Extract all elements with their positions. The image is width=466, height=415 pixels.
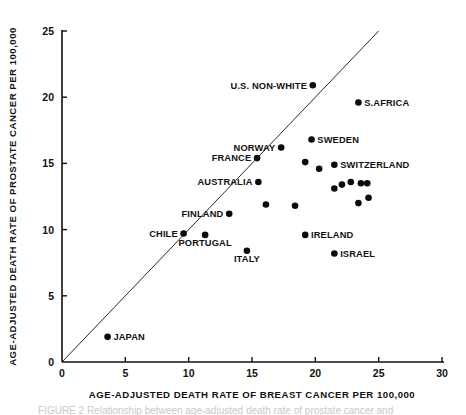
figure-caption-strip: FIGURE 2 Relationship between age-adjust…: [0, 403, 466, 415]
data-point-label: ISRAEL: [340, 249, 375, 259]
x-tick-label: 25: [373, 367, 385, 379]
data-point-unlabeled: [358, 180, 365, 187]
x-tick-label: 5: [122, 367, 128, 379]
data-point-label: SWITZERLAND: [340, 160, 409, 170]
data-point: [104, 334, 111, 341]
x-tick-label: 10: [183, 367, 195, 379]
data-points: [104, 82, 372, 340]
data-point-label: PORTUGAL: [178, 238, 232, 248]
data-point: [331, 250, 338, 257]
data-point-unlabeled: [365, 195, 372, 202]
x-tick-label: 0: [59, 367, 65, 379]
reference-line: [62, 31, 379, 362]
x-axis-title: AGE-ADJUSTED DEATH RATE OF BREAST CANCER…: [89, 389, 415, 400]
data-point: [355, 99, 362, 106]
data-point: [302, 232, 309, 239]
data-point-unlabeled: [364, 180, 371, 187]
data-point: [226, 210, 233, 217]
data-point-unlabeled: [355, 200, 362, 207]
data-point-label: ITALY: [234, 254, 261, 264]
plot-canvas: 0510152025300510152025 JAPANCHILEPORTUGA…: [0, 0, 466, 415]
data-point-unlabeled: [331, 185, 338, 192]
data-point-label: AUSTRALIA: [197, 177, 252, 187]
data-point: [310, 82, 317, 89]
data-point: [331, 161, 338, 168]
x-tick-label: 15: [246, 367, 258, 379]
data-point-label: CHILE: [149, 229, 178, 239]
data-point: [278, 144, 285, 151]
x-tick-label: 30: [436, 367, 448, 379]
scatter-plot-figure: 0510152025300510152025 JAPANCHILEPORTUGA…: [0, 0, 466, 415]
data-point: [180, 230, 187, 237]
y-tick-label: 10: [42, 224, 54, 236]
data-point-labels: JAPANCHILEPORTUGALFINLANDITALYAUSTRALIAF…: [113, 81, 409, 343]
data-point-unlabeled: [316, 165, 323, 172]
axis-tick-labels: 0510152025300510152025: [42, 25, 448, 379]
y-tick-label: 5: [48, 290, 54, 302]
data-point-unlabeled: [302, 159, 309, 166]
data-point: [254, 155, 261, 162]
data-point-unlabeled: [348, 179, 355, 186]
data-point: [255, 179, 262, 186]
data-point-label: U.S. NON-WHITE: [231, 81, 307, 91]
y-axis-title: AGE-ADJUSTED DEATH RATE OF PROSTATE CANC…: [7, 27, 18, 366]
data-point-unlabeled: [292, 202, 299, 209]
y-tick-label: 15: [42, 157, 54, 169]
data-point-label: SWEDEN: [317, 135, 359, 145]
data-point-label: FRANCE: [212, 153, 252, 163]
data-point-unlabeled: [263, 201, 270, 208]
data-point-label: JAPAN: [113, 332, 145, 342]
data-point: [308, 136, 315, 143]
data-point-unlabeled: [339, 181, 346, 188]
y-tick-label: 20: [42, 91, 54, 103]
identity-reference-line: [62, 31, 379, 362]
data-point-label: S.AFRICA: [364, 98, 409, 108]
y-tick-label: 25: [42, 25, 54, 37]
data-point-label: NORWAY: [234, 143, 276, 153]
data-point-label: FINLAND: [182, 209, 224, 219]
y-tick-label: 0: [48, 356, 54, 368]
x-tick-label: 20: [309, 367, 321, 379]
figure-caption: FIGURE 2 Relationship between age-adjust…: [38, 405, 393, 415]
data-point-label: IRELAND: [311, 230, 354, 240]
